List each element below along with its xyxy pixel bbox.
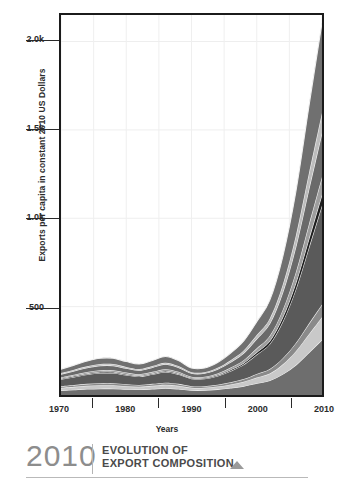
x-tick-label: 1980 (103, 404, 147, 414)
area-series-group (61, 15, 322, 395)
x-minor-tick (291, 398, 292, 408)
footer-caption: 2010 EVOLUTION OF EXPORT COMPOSITION (0, 443, 334, 479)
plot-area (59, 13, 324, 397)
y-axis-title: Exports per capita in constant 2010 US D… (37, 15, 47, 315)
y-tick-label: 1.5k (4, 123, 44, 133)
footer-title-line1: EVOLUTION OF (102, 444, 234, 457)
x-tick-label: 1970 (37, 404, 81, 414)
x-minor-tick (92, 398, 93, 408)
footer-year: 2010 (26, 439, 97, 473)
y-tick-label: 1.0k (4, 212, 44, 222)
x-minor-tick (225, 398, 226, 408)
x-tick-label: 1990 (170, 404, 214, 414)
x-axis-title: Years (0, 424, 334, 434)
x-minor-tick (158, 398, 159, 408)
footer-rule (26, 477, 308, 478)
y-tick-label: 2.0k (4, 34, 44, 44)
y-tick-label: 500 (4, 302, 44, 312)
stacked-area-chart: Exports per capita in constant 2010 US D… (0, 0, 334, 420)
x-tick-label: 2010 (302, 404, 339, 414)
x-tick-label: 2000 (236, 404, 280, 414)
up-triangle-icon (230, 461, 244, 469)
footer-divider (92, 444, 93, 474)
footer-title: EVOLUTION OF EXPORT COMPOSITION (102, 444, 234, 469)
footer-title-line2: EXPORT COMPOSITION (102, 457, 234, 470)
